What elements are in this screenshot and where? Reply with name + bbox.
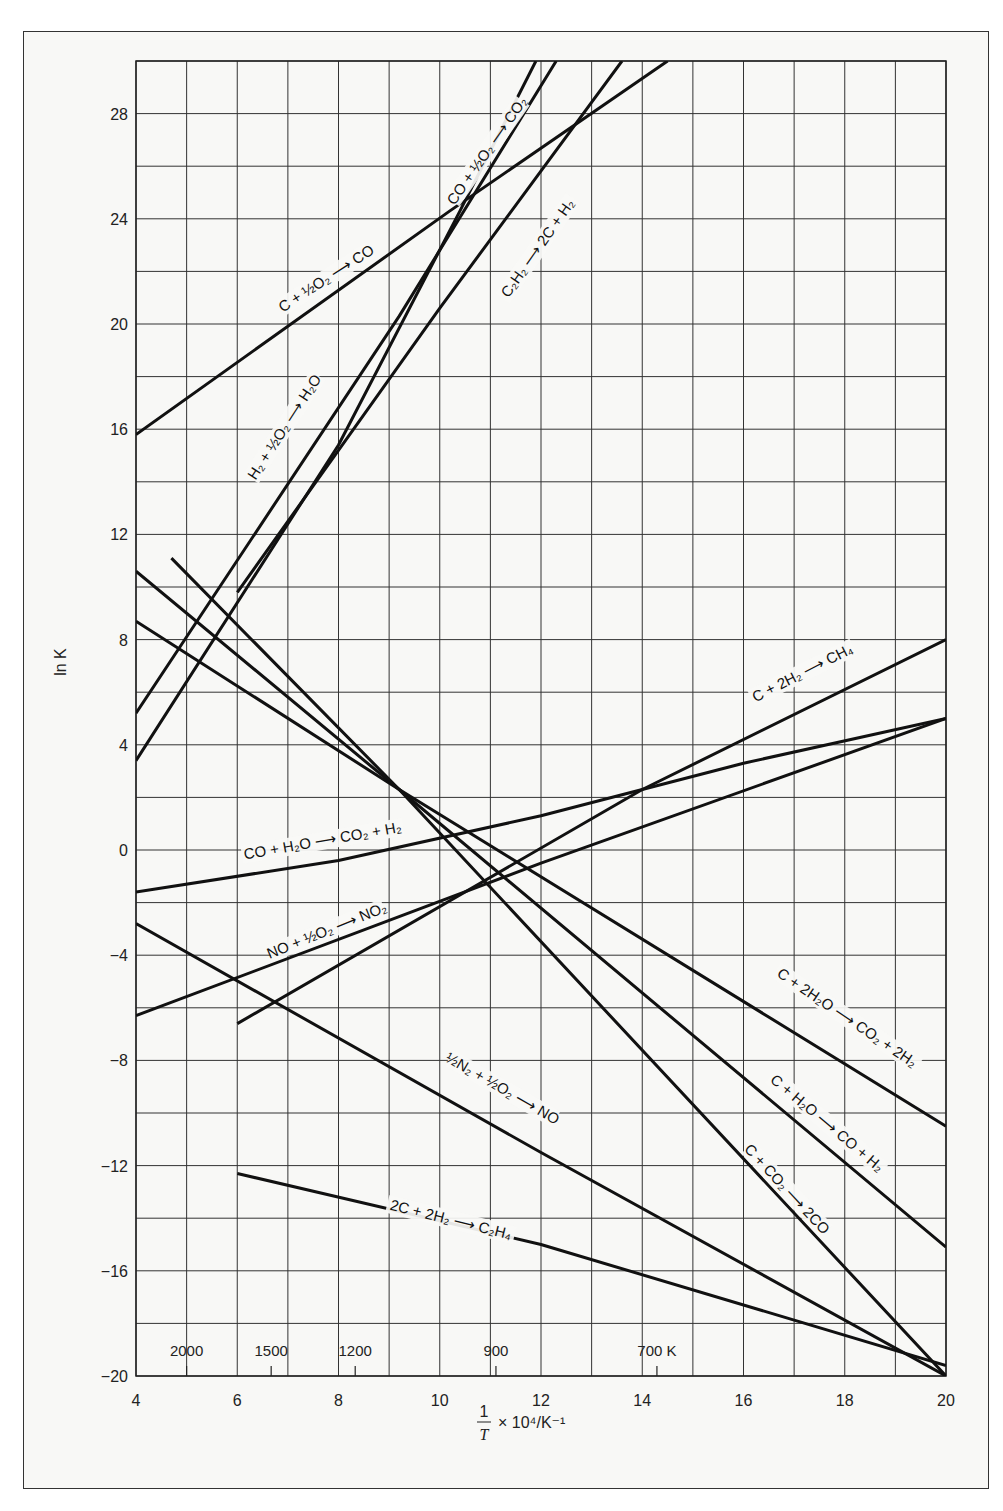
reaction-label-text: C + ½O₂ ⟶ CO <box>275 241 377 315</box>
y-tick-label: 28 <box>110 106 128 123</box>
x-axis-label-denominator: T <box>480 1426 490 1443</box>
y-tick-label: 4 <box>119 737 128 754</box>
ln-k-vs-inverse-temperature-chart: 468101214161820−20−16−12−8−4048121620242… <box>0 0 1003 1511</box>
reaction-label-5: CO + H₂O ⟶ CO₂ + H₂ <box>240 818 404 864</box>
x-tick-label: 4 <box>132 1392 141 1409</box>
temperature-tick-label: 1500 <box>254 1342 287 1359</box>
y-tick-label: −4 <box>110 947 128 964</box>
reaction-label-1: CO + ½O₂ ⟶ CO₂ <box>443 93 531 208</box>
x-axis-label: 1 T × 10⁴/K⁻¹ <box>477 1403 565 1443</box>
y-tick-label: −12 <box>101 1158 128 1175</box>
reaction-label-text: CO + H₂O ⟶ CO₂ + H₂ <box>242 818 403 863</box>
reaction-label-text: C + CO₂ ⟶ 2CO <box>741 1140 833 1237</box>
y-tick-label: −16 <box>101 1263 128 1280</box>
y-tick-label: 16 <box>110 421 128 438</box>
reaction-label-6: NO + ½O₂ ⟶ NO₂ <box>264 898 389 963</box>
series-line-0 <box>136 61 668 435</box>
y-tick-label: 0 <box>119 842 128 859</box>
reaction-label-text: C₂H₂ ⟶ 2C + H₂ <box>497 195 578 300</box>
temperature-tick-label: 2000 <box>170 1342 203 1359</box>
x-tick-label: 18 <box>836 1392 854 1409</box>
y-tick-label: −8 <box>110 1052 128 1069</box>
reaction-label-text: H₂ + ½O₂ ⟶ H₂O <box>244 371 325 483</box>
x-tick-label: 10 <box>431 1392 449 1409</box>
reaction-label-text: CO + ½O₂ ⟶ CO₂ <box>443 93 530 208</box>
reaction-label-10: C + CO₂ ⟶ 2CO <box>740 1140 833 1238</box>
reaction-label-2: H₂ + ½O₂ ⟶ H₂O <box>244 371 326 484</box>
x-tick-label: 20 <box>937 1392 955 1409</box>
y-axis-label: ln K <box>52 648 69 676</box>
x-axis-label-units: × 10⁴/K⁻¹ <box>498 1414 565 1431</box>
x-tick-label: 14 <box>633 1392 651 1409</box>
reaction-label-text: 2C + 2H₂ ⟶ C₂H₄ <box>388 1196 513 1243</box>
reaction-label-11: 2C + 2H₂ ⟶ C₂H₄ <box>385 1195 516 1244</box>
x-tick-label: 6 <box>233 1392 242 1409</box>
x-axis-label-numerator: 1 <box>480 1403 489 1420</box>
y-tick-label: 20 <box>110 316 128 333</box>
reaction-label-text: NO + ½O₂ ⟶ NO₂ <box>264 898 389 962</box>
reaction-labels: C + ½O₂ ⟶ COCO + ½O₂ ⟶ CO₂H₂ + ½O₂ ⟶ H₂O… <box>240 93 923 1244</box>
y-tick-label: 24 <box>110 211 128 228</box>
reaction-label-4: C + 2H₂ ⟶ CH₄ <box>747 639 857 707</box>
y-tick-label: −20 <box>101 1368 128 1385</box>
x-tick-label: 16 <box>735 1392 753 1409</box>
reaction-label-text: C + 2H₂O ⟶ CO₂ + 2H₂ <box>774 964 920 1070</box>
temperature-tick-label: 1200 <box>339 1342 372 1359</box>
reaction-label-3: C₂H₂ ⟶ 2C + H₂ <box>495 193 580 304</box>
y-tick-label: 8 <box>119 632 128 649</box>
series-line-3 <box>237 61 622 592</box>
reaction-label-text: C + H₂O ⟶ CO + H₂ <box>767 1070 887 1175</box>
temperature-tick-label: 900 <box>483 1342 508 1359</box>
reaction-label-text: C + 2H₂ ⟶ CH₄ <box>749 640 855 705</box>
y-tick-label: 12 <box>110 526 128 543</box>
temperature-tick-label: 700 K <box>637 1342 676 1359</box>
x-tick-label: 12 <box>532 1392 550 1409</box>
series-line-2 <box>136 61 556 713</box>
reaction-label-0: C + ½O₂ ⟶ CO <box>275 241 377 316</box>
reaction-label-9: C + H₂O ⟶ CO + H₂ <box>765 1069 889 1178</box>
x-tick-label: 8 <box>334 1392 343 1409</box>
reaction-label-8: C + 2H₂O ⟶ CO₂ + 2H₂ <box>771 962 924 1073</box>
